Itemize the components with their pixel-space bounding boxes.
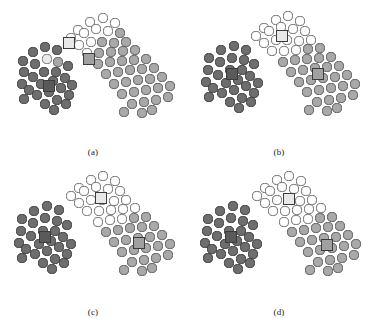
panel-b: (b) bbox=[186, 0, 372, 159]
data-point bbox=[151, 253, 160, 262]
data-point bbox=[145, 232, 154, 241]
data-point bbox=[125, 223, 134, 232]
data-point bbox=[238, 216, 247, 225]
data-point bbox=[249, 59, 258, 68]
data-point bbox=[252, 239, 261, 248]
panel-a-caption: (a) bbox=[0, 147, 186, 157]
data-point bbox=[127, 257, 136, 266]
data-point bbox=[216, 249, 225, 258]
data-point bbox=[202, 226, 211, 235]
data-point bbox=[110, 18, 119, 27]
data-point bbox=[227, 53, 236, 62]
data-point bbox=[141, 85, 150, 94]
data-point bbox=[283, 11, 292, 20]
data-point bbox=[163, 250, 172, 259]
data-point bbox=[63, 61, 72, 70]
data-point bbox=[52, 216, 61, 225]
data-point bbox=[147, 105, 156, 114]
data-point bbox=[237, 93, 246, 102]
cluster-centroid bbox=[39, 231, 51, 243]
data-point bbox=[141, 54, 150, 63]
data-point bbox=[130, 45, 139, 54]
panel-c-caption: (c) bbox=[0, 307, 186, 317]
data-point bbox=[28, 47, 37, 56]
data-point bbox=[335, 221, 344, 230]
data-point bbox=[327, 212, 336, 221]
data-point bbox=[303, 247, 312, 256]
data-point bbox=[137, 222, 146, 231]
data-point bbox=[300, 26, 309, 35]
data-point bbox=[215, 206, 224, 215]
data-point bbox=[291, 45, 300, 54]
data-point bbox=[279, 217, 288, 226]
data-point bbox=[212, 231, 221, 240]
data-point bbox=[74, 198, 83, 207]
data-point bbox=[330, 72, 339, 81]
panel-b-caption: (b) bbox=[186, 147, 372, 157]
data-point bbox=[338, 81, 347, 90]
data-point bbox=[348, 90, 357, 99]
panel-a-canvas bbox=[0, 0, 186, 140]
data-point bbox=[312, 97, 321, 106]
data-point bbox=[109, 79, 118, 88]
data-point bbox=[217, 88, 226, 97]
data-point bbox=[121, 37, 130, 46]
data-point bbox=[113, 225, 122, 234]
data-point bbox=[280, 206, 289, 215]
data-point bbox=[204, 53, 213, 62]
data-point bbox=[93, 217, 102, 226]
data-point bbox=[272, 195, 281, 204]
data-point bbox=[225, 97, 234, 106]
data-point bbox=[79, 28, 88, 37]
data-point bbox=[105, 57, 114, 66]
data-point bbox=[241, 45, 250, 54]
cluster-centroid bbox=[283, 193, 295, 205]
data-point bbox=[203, 65, 212, 74]
data-point bbox=[51, 67, 60, 76]
data-point bbox=[97, 37, 106, 46]
data-point bbox=[145, 74, 154, 83]
data-point bbox=[94, 48, 103, 57]
data-point bbox=[349, 250, 358, 259]
data-point bbox=[284, 171, 293, 180]
data-point bbox=[163, 92, 172, 101]
data-point bbox=[294, 36, 303, 45]
data-point bbox=[342, 70, 351, 79]
data-point bbox=[106, 47, 115, 56]
data-point bbox=[302, 87, 311, 96]
data-point bbox=[315, 43, 324, 52]
data-point bbox=[216, 45, 225, 54]
cluster-centroid bbox=[276, 30, 288, 42]
data-point bbox=[207, 244, 216, 253]
data-point bbox=[62, 220, 71, 229]
data-point bbox=[295, 16, 304, 25]
data-point bbox=[299, 225, 308, 234]
data-point bbox=[267, 46, 276, 55]
data-point bbox=[133, 75, 142, 84]
data-point bbox=[203, 214, 212, 223]
kmeans-figure: (a) (b) (c) (d) bbox=[0, 0, 373, 319]
data-point bbox=[165, 239, 174, 248]
data-point bbox=[322, 62, 331, 71]
data-point bbox=[229, 85, 238, 94]
data-point bbox=[351, 239, 360, 248]
data-point bbox=[42, 201, 51, 210]
data-point bbox=[117, 247, 126, 256]
data-point bbox=[17, 214, 26, 223]
data-point bbox=[331, 232, 340, 241]
data-point bbox=[208, 83, 217, 92]
data-point bbox=[129, 87, 138, 96]
data-point bbox=[19, 67, 28, 76]
data-point bbox=[117, 56, 126, 65]
panel-d: (d) bbox=[186, 160, 372, 319]
data-point bbox=[289, 184, 298, 193]
data-point bbox=[38, 258, 47, 267]
data-point bbox=[315, 213, 324, 222]
data-point bbox=[129, 213, 138, 222]
data-point bbox=[49, 105, 58, 114]
data-point bbox=[32, 90, 41, 99]
data-point bbox=[326, 83, 335, 92]
data-point bbox=[101, 227, 110, 236]
data-point bbox=[42, 54, 51, 63]
data-point bbox=[98, 171, 107, 180]
